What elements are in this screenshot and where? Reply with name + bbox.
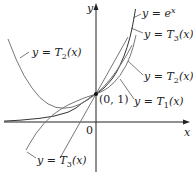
y-axis-label: y: [86, 2, 94, 15]
t3-bottom-label: y = T3(x): [36, 154, 87, 169]
origin-label: 0: [86, 124, 93, 137]
t2-right-pointer: [128, 61, 143, 75]
t2-right-label: y = T2(x): [143, 70, 193, 85]
exp-sup: x: [171, 6, 176, 15]
x-axis-arrow-icon: [183, 120, 190, 125]
y-axis-arrow-icon: [94, 3, 99, 10]
point-marker: [94, 92, 98, 96]
t1-right-label: y = T1(x): [133, 95, 184, 110]
taylor-polynomial-diagram: y x 0 (0, 1) y = ex y = T3(x) y = T2(x) …: [0, 0, 193, 174]
exp-label: y = ex: [141, 6, 176, 20]
x-axis-label: x: [184, 126, 191, 139]
t3-right-label: y = T3(x): [143, 28, 193, 43]
t3-bottom-pointer: [27, 152, 36, 158]
t3-right-pointer: [131, 28, 143, 33]
t2-left-pointer: [20, 52, 29, 58]
point-label: (0, 1): [99, 93, 129, 106]
t2-left-label: y = T2(x): [31, 46, 82, 61]
